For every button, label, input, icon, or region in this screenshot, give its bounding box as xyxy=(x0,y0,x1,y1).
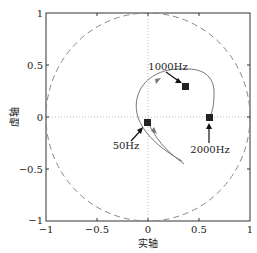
label-50hz: 50Hz xyxy=(113,140,140,151)
xtick-neg0.5: −0.5 xyxy=(85,224,109,235)
ytick-1: 1 xyxy=(37,8,43,19)
xtick-0: 0 xyxy=(145,224,151,235)
ytick-neg0.5: −0.5 xyxy=(19,164,43,175)
label-1000hz: 1000Hz xyxy=(148,61,187,72)
ytick-0.5: 0.5 xyxy=(27,60,43,71)
marker-50hz xyxy=(144,119,151,126)
direction-arrow-icon xyxy=(155,78,161,84)
xtick-0.5: 0.5 xyxy=(191,224,207,235)
annotation-arrows xyxy=(131,72,209,143)
ytick-0: 0 xyxy=(37,112,43,123)
xtick-neg1: −1 xyxy=(39,224,54,235)
marker-1000hz xyxy=(182,83,189,90)
x-axis-label: 实轴 xyxy=(138,237,158,249)
label-2000hz: 2000Hz xyxy=(190,144,229,155)
nyquist-chart: 1 0.5 0 −0.5 −1 −1 −0.5 0 0.5 1 实轴 虚轴 50… xyxy=(0,0,257,253)
y-axis-label: 虚轴 xyxy=(8,107,20,127)
marker-2000hz xyxy=(206,114,213,121)
xtick-1: 1 xyxy=(247,224,253,235)
arrowhead-icon xyxy=(206,123,212,129)
